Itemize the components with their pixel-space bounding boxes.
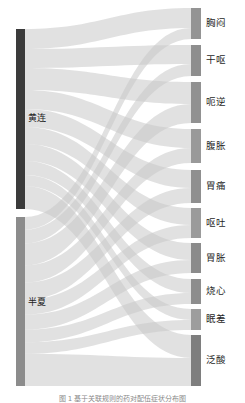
target-node-label-2: 呃逆	[206, 97, 227, 107]
sankey-node-xiongmen[interactable]	[191, 8, 201, 39]
target-node-label-7: 烧心	[206, 286, 227, 296]
target-node-label-9: 泛酸	[206, 355, 227, 365]
sankey-node-gan_ou[interactable]	[191, 45, 201, 76]
source-node-label-1: 半夏	[28, 298, 47, 307]
sankey-node-huanglian[interactable]	[16, 29, 25, 209]
sankey-node-fansuan[interactable]	[191, 335, 201, 386]
target-node-label-4: 胃痛	[206, 181, 227, 191]
sankey-link	[25, 354, 191, 386]
sankey-links-group	[25, 8, 191, 386]
source-node-label-0: 黄连	[28, 114, 47, 123]
sankey-node-mianchai[interactable]	[191, 309, 201, 330]
sankey-node-outu[interactable]	[191, 208, 201, 238]
sankey-node-fuzhang[interactable]	[191, 129, 201, 163]
target-node-label-3: 腹胀	[206, 141, 227, 151]
sankey-node-weitong[interactable]	[191, 170, 201, 203]
sankey-link	[25, 45, 191, 68]
sankey-node-shaoxin[interactable]	[191, 279, 201, 304]
sankey-node-banxia[interactable]	[16, 217, 25, 386]
target-node-label-1: 干呕	[206, 55, 227, 65]
sankey-node-weizhang[interactable]	[191, 243, 201, 273]
target-node-label-6: 胃胀	[206, 253, 227, 263]
sankey-node-e_ni[interactable]	[191, 82, 201, 123]
target-node-label-0: 胸闷	[206, 18, 227, 28]
target-node-label-8: 眠差	[206, 314, 227, 324]
figure-caption: 图 1 基于关联规则的药对配伍症状分布图	[0, 395, 245, 403]
target-node-label-5: 呕吐	[206, 218, 227, 228]
